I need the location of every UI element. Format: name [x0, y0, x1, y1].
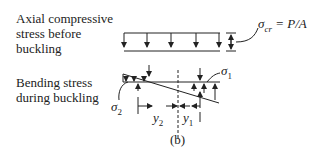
- y1-subscript: 1: [189, 118, 194, 128]
- y1-label: y1: [183, 110, 193, 131]
- sigma2-label: σ2: [111, 99, 122, 120]
- sigma1-subscript: 1: [227, 71, 232, 81]
- sigma-cr-subscript: cr: [264, 24, 272, 34]
- sigma-cr-rhs: = P/A: [272, 16, 307, 31]
- bending-stress-block: [119, 65, 220, 140]
- y2-label: y2: [153, 110, 163, 131]
- y2-subscript: 2: [159, 118, 164, 128]
- sigma1-label: σ1: [221, 63, 232, 84]
- figure-caption: (b): [170, 132, 185, 147]
- sigma2-subscript: 2: [117, 107, 122, 117]
- sigma-cr-label: σcr = P/A: [258, 16, 307, 37]
- uniform-stress-block: [124, 28, 258, 51]
